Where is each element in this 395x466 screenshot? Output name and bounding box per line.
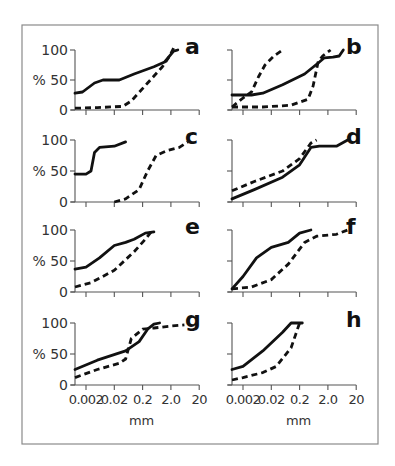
panel-label-c: c: [185, 124, 198, 149]
curve-solid: [75, 232, 154, 269]
panel-label-d: d: [346, 124, 362, 149]
x-tick-label: 2.0: [318, 392, 337, 407]
panel-b: b: [227, 34, 362, 115]
panel-label-b: b: [346, 34, 362, 59]
y-tick-label: % 50: [32, 163, 68, 179]
curve-dashed: [232, 323, 300, 380]
panel-label-g: g: [185, 307, 201, 332]
x-axis-unit-label: mm: [129, 413, 154, 428]
x-tick-label: 0.2: [133, 392, 152, 407]
panel-g: 100% 5000.0020.020.22.020mmg: [32, 307, 207, 428]
curve-dashed-1: [232, 50, 283, 107]
panel-d: d: [227, 124, 362, 207]
y-tick-label: 0: [59, 284, 68, 300]
curve-dashed: [75, 232, 151, 287]
x-tick-label: 2.0: [161, 392, 180, 407]
x-tick-label: 0.002: [69, 392, 104, 407]
panel-f: f: [227, 214, 356, 297]
panel-c: 100% 500c: [32, 124, 199, 210]
y-tick-label: % 50: [32, 253, 68, 269]
y-tick-label: 0: [59, 377, 68, 393]
panel-label-e: e: [185, 214, 200, 239]
y-tick-label: % 50: [32, 72, 68, 88]
curve-dashed: [75, 325, 184, 378]
x-tick-label: 20: [348, 392, 364, 407]
curve-dashed: [232, 140, 317, 191]
x-tick-label: 0.002: [226, 392, 261, 407]
panel-label-f: f: [346, 214, 356, 239]
panel-label-h: h: [346, 307, 362, 332]
x-tick-label: 0.02: [258, 392, 285, 407]
y-tick-label: 100: [41, 222, 68, 238]
curve-dashed: [114, 142, 188, 202]
y-tick-label: 100: [41, 132, 68, 148]
panels: 100% 500ab100% 500cd100% 500ef100% 5000.…: [32, 34, 364, 428]
panel-label-a: a: [185, 34, 200, 59]
y-tick-label: % 50: [32, 346, 68, 362]
x-tick-label: 0.02: [101, 392, 128, 407]
y-tick-label: 0: [59, 102, 68, 118]
x-tick-label: 0.2: [290, 392, 309, 407]
x-tick-label: 20: [191, 392, 207, 407]
panel-a: 100% 500a: [32, 34, 199, 118]
y-tick-label: 100: [41, 315, 68, 331]
x-axis-unit-label: mm: [286, 413, 311, 428]
panel-e: 100% 500e: [32, 214, 200, 300]
panel-h: 0.0020.020.22.020mmh: [226, 307, 365, 428]
y-tick-label: 0: [59, 194, 68, 210]
grain-size-distribution-figure: 100% 500ab100% 500cd100% 500ef100% 5000.…: [0, 0, 395, 466]
curve-dashed-2: [232, 50, 331, 107]
curve-solid: [75, 142, 126, 174]
curve-solid: [232, 140, 348, 199]
curve-dashed: [232, 230, 348, 289]
y-tick-label: 100: [41, 42, 68, 58]
curve-solid: [232, 50, 343, 95]
curve-solid: [75, 50, 178, 93]
